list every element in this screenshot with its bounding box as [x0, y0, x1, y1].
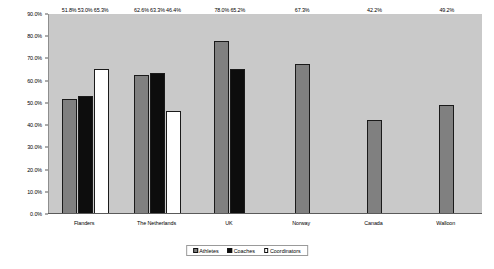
- bar-coordinators[interactable]: 46.4%: [166, 111, 181, 214]
- legend-swatch-icon: [264, 248, 269, 253]
- bar-value-label: 65.3%: [94, 7, 109, 13]
- bar-column: 67.3%: [295, 14, 310, 214]
- legend-item[interactable]: Coaches: [228, 248, 255, 254]
- bar-athletes[interactable]: 51.8%: [62, 99, 77, 214]
- y-axis-tick-label: 70.0%: [0, 55, 42, 61]
- x-axis-line: [48, 213, 482, 214]
- x-axis-category-label: Walloon: [410, 220, 482, 226]
- x-axis-category-label: The Netherlands: [120, 220, 192, 226]
- bar-group-bars: 49.2%: [411, 14, 483, 214]
- bar-value-label: 78.0%: [214, 7, 229, 13]
- bar-athletes[interactable]: 49.2%: [439, 105, 454, 214]
- bar-value-label: 51.8%: [62, 7, 77, 13]
- legend-label: Athletes: [199, 248, 218, 254]
- bar-value-label: 63.3%: [150, 7, 165, 13]
- bar-value-label: 53.0%: [78, 7, 93, 13]
- x-axis-category-label: Flanders: [48, 220, 120, 226]
- bar-group: 62.6%63.3%46.4%: [121, 14, 193, 214]
- bar-column: 63.3%: [150, 14, 165, 214]
- bar-athletes[interactable]: 78.0%: [214, 41, 229, 214]
- plot-area: 51.8%53.0%65.3%62.6%63.3%46.4%78.0%65.2%…: [48, 14, 482, 214]
- bar-column: 65.3%: [94, 14, 109, 214]
- bar-group-bars: 78.0%65.2%: [194, 14, 266, 214]
- legend-swatch-icon: [228, 248, 233, 253]
- bar-group-bars: 51.8%53.0%65.3%: [49, 14, 121, 214]
- bar-group: 51.8%53.0%65.3%: [49, 14, 121, 214]
- bar-value-label: 62.6%: [134, 7, 149, 13]
- bar-coaches[interactable]: 65.2%: [230, 69, 245, 214]
- bar-value-label: 65.2%: [230, 7, 245, 13]
- legend-label: Coaches: [234, 248, 255, 254]
- x-axis-category-label: Norway: [265, 220, 337, 226]
- bar-column: 46.4%: [166, 14, 181, 214]
- bar-column: 62.6%: [134, 14, 149, 214]
- bar-group: 67.3%: [266, 14, 338, 214]
- bar-coaches[interactable]: 63.3%: [150, 73, 165, 214]
- bar-athletes[interactable]: 67.3%: [295, 64, 310, 214]
- bar-coaches[interactable]: 53.0%: [78, 96, 93, 214]
- y-axis-tick-label: 80.0%: [0, 33, 42, 39]
- y-axis-tick-label: 60.0%: [0, 78, 42, 84]
- bar-value-label: 42.2%: [367, 7, 382, 13]
- bar-column: 78.0%: [214, 14, 229, 214]
- bar-coordinators[interactable]: 65.3%: [94, 69, 109, 214]
- bar-group-bars: 42.2%: [338, 14, 410, 214]
- y-axis-tick-label: 10.0%: [0, 189, 42, 195]
- y-axis-tick-label: 0.0%: [0, 211, 42, 217]
- y-axis-tick-label: 90.0%: [0, 11, 42, 17]
- bar-group-bars: 67.3%: [266, 14, 338, 214]
- bar-column: 65.2%: [230, 14, 245, 214]
- y-axis-tick-label: 50.0%: [0, 100, 42, 106]
- y-axis-tick-label: 20.0%: [0, 167, 42, 173]
- bar-column: 51.8%: [62, 14, 77, 214]
- legend-swatch-icon: [193, 248, 198, 253]
- legend-item[interactable]: Coordinators: [264, 248, 301, 254]
- x-axis-category-label: Canada: [337, 220, 409, 226]
- bar-group: 78.0%65.2%: [194, 14, 266, 214]
- x-axis-category-label: UK: [193, 220, 265, 226]
- bar-group-bars: 62.6%63.3%46.4%: [121, 14, 193, 214]
- bar-athletes[interactable]: 42.2%: [367, 120, 382, 214]
- bar-value-label: 46.4%: [166, 7, 181, 13]
- y-axis-tick-label: 40.0%: [0, 122, 42, 128]
- bar-column: 53.0%: [78, 14, 93, 214]
- bar-chart: 0.0%10.0%20.0%30.0%40.0%50.0%60.0%70.0%8…: [0, 0, 494, 269]
- bar-group: 49.2%: [411, 14, 483, 214]
- bar-column: 49.2%: [439, 14, 454, 214]
- bar-value-label: 49.2%: [439, 7, 454, 13]
- chart-legend: AthletesCoachesCoordinators: [186, 245, 308, 256]
- bar-group: 42.2%: [338, 14, 410, 214]
- plot-inner: 51.8%53.0%65.3%62.6%63.3%46.4%78.0%65.2%…: [49, 14, 482, 214]
- y-axis: 0.0%10.0%20.0%30.0%40.0%50.0%60.0%70.0%8…: [0, 14, 48, 214]
- bar-athletes[interactable]: 62.6%: [134, 75, 149, 214]
- y-axis-tick-label: 30.0%: [0, 144, 42, 150]
- legend-item[interactable]: Athletes: [193, 248, 218, 254]
- bar-value-label: 67.3%: [295, 7, 310, 13]
- bar-column: 42.2%: [367, 14, 382, 214]
- legend-label: Coordinators: [270, 248, 301, 254]
